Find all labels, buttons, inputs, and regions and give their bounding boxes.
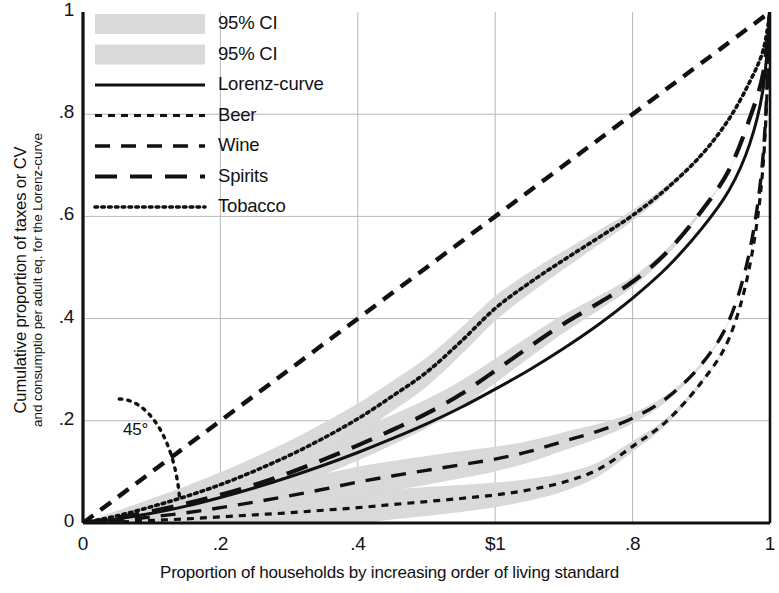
y-tick-label-5: 1 xyxy=(40,0,74,21)
y-tick-label-4: .8 xyxy=(40,101,74,123)
y-tick-label-2: .4 xyxy=(40,306,74,328)
y-tick-label-1: .2 xyxy=(40,408,74,430)
legend-label-lorenz-curve: Lorenz-curve xyxy=(218,73,324,95)
x-tick-label-4: .8 xyxy=(610,533,656,555)
legend-swatch-ci-1 xyxy=(95,45,205,65)
legend-swatch-ci-0 xyxy=(95,14,205,34)
legend-label-spirits: Spirits xyxy=(218,165,268,187)
x-tick-label-0: 0 xyxy=(60,533,106,555)
plot-area xyxy=(0,0,779,593)
x-tick-label-2: .4 xyxy=(335,533,381,555)
x-tick-label-3: $1 xyxy=(472,533,518,555)
lorenz-curve-figure: Cumulative proportion of taxes or CV and… xyxy=(0,0,779,593)
legend-label-beer: Beer xyxy=(218,104,256,126)
legend-marks xyxy=(95,14,205,207)
legend-label-wine: Wine xyxy=(218,134,259,156)
angle-arc-path xyxy=(116,399,179,496)
annotation-45-degrees: 45° xyxy=(123,420,148,440)
series-curves xyxy=(83,12,770,523)
x-tick-label-5: 1 xyxy=(747,533,779,555)
x-tick-label-1: .2 xyxy=(197,533,243,555)
legend-label-95-ci: 95% CI xyxy=(218,12,277,34)
legend-label-95-ci: 95% CI xyxy=(218,43,277,65)
y-tick-label-0: 0 xyxy=(40,510,74,532)
legend-label-tobacco: Tobacco xyxy=(218,195,286,217)
angle-arc-45deg xyxy=(116,399,179,496)
y-tick-label-3: .6 xyxy=(40,203,74,225)
